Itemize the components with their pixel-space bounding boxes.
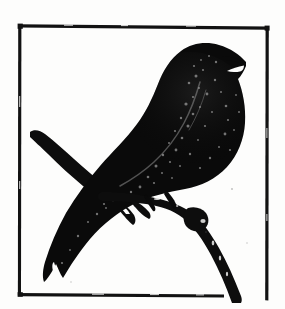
frame-corner-top-right — [265, 26, 270, 31]
bird-silhouette-artwork — [0, 0, 285, 309]
frame-right-stroke — [265, 26, 269, 300]
illustration-figure: Black silhouette of a perched songbird w… — [0, 0, 285, 309]
frame-left-stroke — [18, 24, 22, 296]
frame-corner-bottom-left — [18, 292, 23, 297]
branch-stub-hole — [37, 148, 42, 153]
frame-corner-top-left — [18, 24, 23, 29]
